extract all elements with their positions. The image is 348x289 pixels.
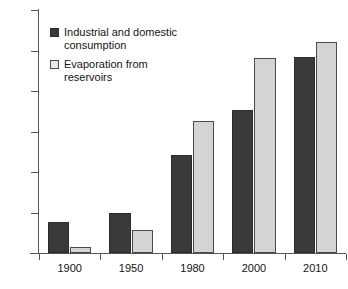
legend-label-evaporation: Evaporation fromreservoirs <box>64 58 148 83</box>
x-tick-mark <box>223 254 224 260</box>
legend-swatch-evaporation <box>50 60 59 69</box>
x-tick-mark <box>39 254 40 260</box>
bar-chart-figure: 050100150200250300 19001950198020002010 … <box>0 0 348 289</box>
bar <box>316 42 337 253</box>
x-axis-line <box>30 253 346 254</box>
y-tick-label-wrap: 300 <box>0 10 38 11</box>
legend-item-evaporation: Evaporation fromreservoirs <box>50 58 200 83</box>
bar <box>70 247 91 253</box>
bar <box>171 155 192 253</box>
x-tick-mark <box>346 254 347 260</box>
y-tick-label-wrap: 250 <box>0 51 38 52</box>
bar <box>48 222 69 253</box>
x-tick-label: 2000 <box>242 263 266 274</box>
y-tick-label-wrap: 100 <box>0 172 38 173</box>
x-tick-label: 1900 <box>57 263 81 274</box>
x-tick-label: 1980 <box>180 263 204 274</box>
y-tick-label-wrap: 150 <box>0 132 38 133</box>
legend-item-industrial: Industrial and domesticconsumption <box>50 26 200 51</box>
bar <box>232 110 253 253</box>
x-tick-mark <box>285 254 286 260</box>
x-tick-label: 2010 <box>303 263 327 274</box>
chart-legend: Industrial and domesticconsumption Evapo… <box>50 26 200 90</box>
bar <box>132 230 153 253</box>
x-tick-mark <box>162 254 163 260</box>
y-tick-label-wrap: 200 <box>0 91 38 92</box>
legend-swatch-industrial <box>50 28 59 37</box>
x-tick-mark <box>100 254 101 260</box>
bar <box>193 121 214 253</box>
x-tick-label: 1950 <box>119 263 143 274</box>
bar <box>294 57 315 253</box>
y-tick-label-wrap: 0 <box>0 253 38 254</box>
bar <box>254 58 275 253</box>
y-tick-label-wrap: 50 <box>0 213 38 214</box>
legend-label-industrial: Industrial and domesticconsumption <box>64 26 177 51</box>
bar <box>109 213 130 254</box>
